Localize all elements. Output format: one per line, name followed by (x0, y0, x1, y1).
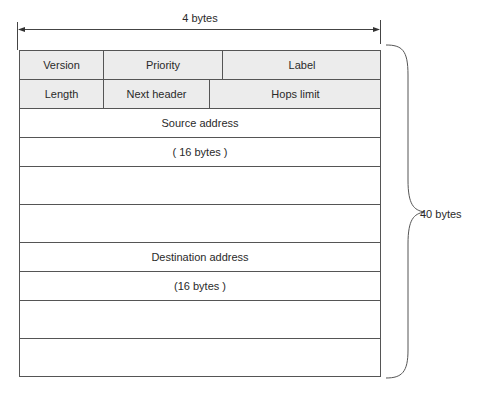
arrow-left-icon (18, 27, 25, 32)
arrow-right-icon (373, 27, 380, 32)
row-destination-size: (16 bytes ) (20, 272, 380, 301)
curly-brace-icon (386, 45, 424, 378)
field-length: Length (20, 80, 104, 108)
blank-cell (20, 301, 380, 338)
row-source-size: ( 16 bytes ) (20, 138, 380, 167)
field-label: Label (223, 51, 381, 79)
row-source-blank-1 (20, 167, 380, 205)
field-version: Version (20, 51, 104, 79)
row-destination-blank-1 (20, 301, 380, 339)
field-hops-limit: Hops limit (210, 80, 381, 108)
row-length-nextheader-hops: Length Next header Hops limit (20, 80, 380, 109)
row-version-priority-label: Version Priority Label (20, 51, 380, 80)
blank-cell (20, 339, 380, 376)
row-source-address: Source address (20, 109, 380, 138)
field-next-header: Next header (104, 80, 210, 108)
source-address-label: Source address (20, 109, 380, 137)
blank-cell (20, 205, 380, 242)
ipv6-header-table: Version Priority Label Length Next heade… (19, 50, 381, 377)
row-destination-blank-2 (20, 339, 380, 376)
row-source-blank-2 (20, 205, 380, 243)
destination-size-label: (16 bytes ) (20, 272, 380, 300)
total-size-label: 40 bytes (420, 208, 462, 220)
destination-address-label: Destination address (20, 243, 380, 271)
field-priority: Priority (104, 51, 223, 79)
source-size-label: ( 16 bytes ) (20, 138, 380, 166)
blank-cell (20, 167, 380, 204)
row-destination-address: Destination address (20, 243, 380, 272)
